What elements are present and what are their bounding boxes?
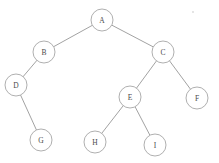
tree-node-h[interactable]: H	[84, 131, 106, 153]
tree-node-b[interactable]: B	[33, 41, 55, 63]
tree-edge-c-e	[137, 61, 157, 88]
tree-node-f[interactable]: F	[186, 87, 208, 109]
node-label-d: D	[13, 81, 19, 90]
tree-edge-a-b	[54, 25, 93, 46]
tree-node-d[interactable]: D	[5, 74, 27, 96]
tree-edge-a-c	[112, 25, 154, 47]
tree-node-i[interactable]: I	[144, 134, 166, 156]
scan-speck-artifact	[192, 11, 194, 13]
tree-edge-e-i	[135, 107, 150, 135]
tree-edge-c-f	[170, 61, 191, 89]
tree-node-a[interactable]: A	[91, 9, 113, 31]
tree-node-c[interactable]: C	[152, 41, 174, 63]
node-label-f: F	[195, 94, 199, 103]
diagram-canvas: ABCDEFGHI	[0, 0, 219, 163]
tree-node-e[interactable]: E	[119, 86, 141, 108]
node-label-b: B	[41, 48, 46, 57]
node-label-e: E	[128, 93, 133, 102]
node-label-h: H	[92, 138, 98, 147]
tree-edge-b-d	[23, 60, 37, 76]
node-label-c: C	[160, 48, 165, 57]
tree-node-g[interactable]: G	[30, 129, 52, 151]
binary-tree-diagram: ABCDEFGHI	[0, 0, 219, 163]
tree-edge-e-h	[102, 106, 124, 134]
node-label-a: A	[99, 16, 105, 25]
artifacts-group	[192, 11, 194, 13]
nodes-group: ABCDEFGHI	[5, 9, 208, 156]
tree-edge-d-g	[21, 95, 37, 130]
node-label-g: G	[38, 136, 44, 145]
